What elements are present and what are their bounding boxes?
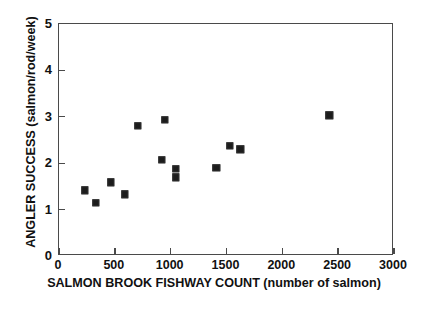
y-axis-tick-label: 5	[45, 16, 52, 31]
x-axis-tick-label: 2500	[323, 258, 351, 272]
data-point	[121, 191, 128, 198]
data-point	[81, 186, 88, 193]
data-point	[92, 199, 99, 206]
y-axis-tick	[59, 116, 65, 117]
plot-area	[58, 23, 393, 255]
y-axis-tick-label: 1	[45, 201, 52, 216]
x-axis-tick-label: 500	[103, 258, 124, 272]
y-axis-tick	[59, 163, 65, 164]
x-axis-tick-label: 1500	[212, 258, 240, 272]
x-axis-tick	[114, 248, 115, 254]
y-axis-tick	[59, 70, 65, 71]
data-point	[158, 156, 165, 163]
scatter-chart-figure: SALMON BROOK FISHWAY COUNT (number of sa…	[0, 0, 428, 309]
x-axis-tick	[337, 248, 338, 254]
data-point	[237, 146, 244, 153]
y-axis-tick-label: 2	[45, 155, 52, 170]
data-point	[161, 116, 168, 123]
x-axis-tick-label: 3000	[379, 258, 407, 272]
x-axis-tick	[170, 248, 171, 254]
x-axis-tick	[226, 248, 227, 254]
data-point	[107, 179, 114, 186]
x-axis-tick-label: 2000	[267, 258, 295, 272]
y-axis-tick-label: 3	[45, 108, 52, 123]
y-axis-title: ANGLER SUCCESS (salmon/rod/week)	[24, 7, 38, 257]
y-axis-tick	[59, 209, 65, 210]
x-axis-tick-label: 1000	[156, 258, 184, 272]
x-axis-tick	[393, 248, 394, 254]
data-point	[326, 112, 333, 119]
data-point	[172, 173, 179, 180]
x-axis-title: SALMON BROOK FISHWAY COUNT (number of sa…	[0, 276, 428, 290]
y-axis-tick-label: 4	[45, 62, 52, 77]
data-point	[226, 142, 233, 149]
x-axis-tick	[282, 248, 283, 254]
data-point	[213, 164, 220, 171]
data-point	[134, 122, 141, 129]
data-point	[172, 165, 179, 172]
x-axis-tick-label: 0	[55, 258, 62, 272]
y-axis-tick-label: 0	[45, 248, 52, 263]
x-axis-tick	[58, 248, 59, 254]
